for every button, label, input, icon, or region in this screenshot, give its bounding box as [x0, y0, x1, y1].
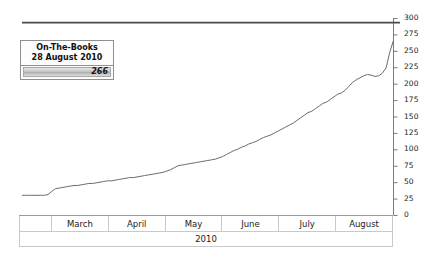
x-axis-month-bands: MarchAprilMayJuneJulyAugust: [19, 215, 393, 232]
x-axis-band-august: August: [336, 216, 393, 231]
x-axis-band-march: March: [52, 216, 109, 231]
x-axis-band-label: May: [185, 219, 203, 229]
tooltip-value-row: 266: [21, 65, 113, 79]
y-axis-tick-label: 75: [404, 162, 414, 170]
x-axis-band-may: May: [166, 216, 223, 231]
y-axis-tick-label: 25: [404, 195, 414, 203]
x-axis-band-label: April: [127, 219, 146, 229]
x-axis-band-partial: [19, 216, 52, 231]
y-axis-tick-label: 175: [404, 96, 419, 104]
tooltip-date: 28 August 2010: [21, 53, 113, 65]
x-axis-band-label: June: [241, 219, 260, 229]
x-axis-band-june: June: [222, 216, 279, 231]
y-axis-tick-label: 250: [404, 47, 419, 55]
y-axis-tick-label: 0: [404, 211, 409, 219]
y-axis-tick-label: 100: [404, 145, 419, 153]
y-axis-tick-label: 200: [404, 80, 419, 88]
y-axis-tick-label: 150: [404, 113, 419, 121]
x-axis-year-label: 2010: [19, 232, 393, 247]
chart-container: 0255075100125150175200225250275300 March…: [0, 0, 432, 259]
y-axis-tick-label: 300: [404, 14, 419, 22]
y-axis-tick-label: 225: [404, 63, 419, 71]
y-axis-tick-marks: [394, 19, 398, 216]
x-axis-band-label: July: [300, 219, 315, 229]
y-axis-tick-label: 275: [404, 30, 419, 38]
x-axis-band-label: March: [67, 219, 93, 229]
x-axis-band-april: April: [109, 216, 166, 231]
y-axis-tick-label: 125: [404, 129, 419, 137]
tooltip: On-The-Books 28 August 2010 266: [20, 40, 114, 80]
x-axis-year-text: 2010: [195, 234, 217, 244]
x-axis-band-label: August: [349, 219, 379, 229]
x-axis-band-july: July: [279, 216, 336, 231]
tooltip-value: 266: [91, 66, 108, 78]
tooltip-title: On-The-Books: [21, 41, 113, 53]
y-axis-tick-label: 50: [404, 178, 414, 186]
